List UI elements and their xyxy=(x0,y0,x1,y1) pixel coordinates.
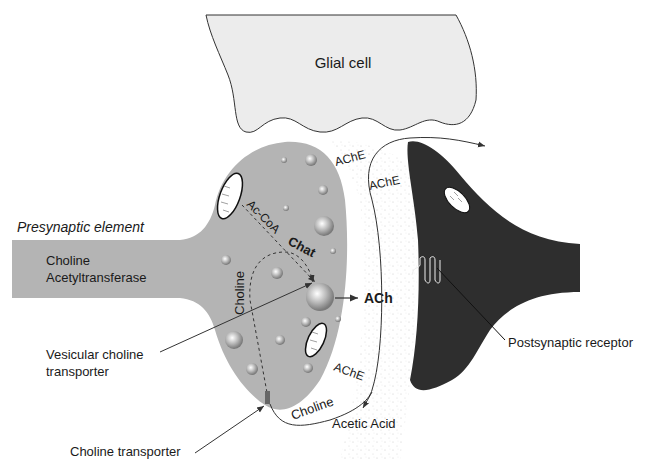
synapse-diagram: Glial cell Ac-CoA Chat Choline ACh xyxy=(0,0,660,466)
choline-transporter-label: Choline transporter xyxy=(70,444,181,459)
ach-label: ACh xyxy=(364,290,393,306)
choline-acetyltransferase-label-2: Acetyltransferase xyxy=(46,270,146,285)
vesicular-transporter-label-2: transporter xyxy=(46,364,110,379)
choline-acetyltransferase-label-1: Choline xyxy=(46,253,90,268)
presynaptic-element-label: Presynaptic element xyxy=(17,219,145,235)
postsynaptic-element xyxy=(407,141,580,390)
acetic-acid-label: Acetic Acid xyxy=(332,416,396,431)
vesicular-transporter-label-1: Vesicular choline xyxy=(46,347,144,362)
glial-cell xyxy=(206,15,476,132)
choline-internal-label: Choline xyxy=(232,271,247,315)
choline-transporter-icon xyxy=(265,391,270,404)
postsynaptic-receptor-label: Postsynaptic receptor xyxy=(508,335,634,350)
glial-cell-label: Glial cell xyxy=(315,54,372,71)
choline-transporter-leader xyxy=(195,406,264,453)
